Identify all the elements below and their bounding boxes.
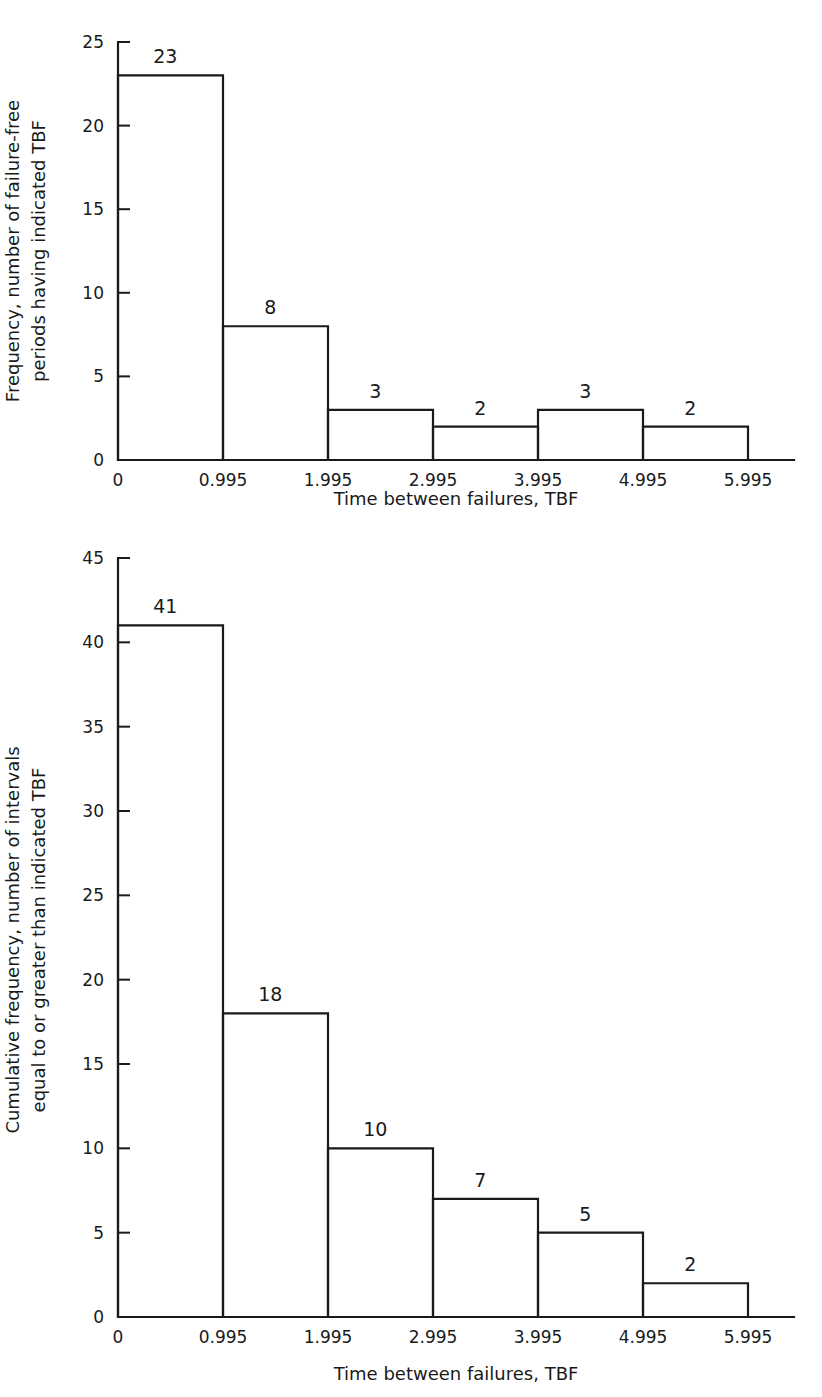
bar-value-label: 7 [474, 1169, 486, 1191]
x-axis-title: Time between failures, TBF [333, 488, 579, 509]
y-tick-label: 20 [82, 116, 104, 136]
bar-value-label: 23 [153, 45, 177, 67]
histogram-bar [118, 75, 223, 460]
y-tick-label: 45 [82, 548, 104, 568]
y-tick-label: 35 [82, 717, 104, 737]
y-axis-title-line: Cumulative frequency, number of interval… [2, 746, 23, 1133]
histogram-bar [223, 1013, 328, 1317]
histogram-bar [643, 1283, 748, 1317]
y-tick-label: 25 [82, 32, 104, 52]
bar-value-label: 5 [579, 1203, 591, 1225]
bar-value-label: 3 [579, 380, 591, 402]
y-axis-title-line: periods having indicated TBF [28, 120, 49, 382]
figure-container: 051015202500.9951.9952.9953.9954.9955.99… [0, 0, 822, 1397]
bar-value-label: 10 [363, 1118, 387, 1140]
y-tick-label: 15 [82, 199, 104, 219]
histogram-bar [433, 1199, 538, 1317]
x-tick-label: 3.995 [514, 470, 563, 490]
histogram-bar [643, 427, 748, 460]
bar-value-label: 3 [369, 380, 381, 402]
histogram-bar [433, 427, 538, 460]
y-tick-label: 40 [82, 632, 104, 652]
y-axis-title: Frequency, number of failure-freeperiods… [2, 100, 49, 402]
x-tick-label: 4.995 [619, 470, 668, 490]
histogram-bar [223, 326, 328, 460]
histogram-bar [328, 1148, 433, 1317]
bar-value-label: 2 [684, 397, 696, 419]
x-tick-label: 0 [113, 1327, 124, 1347]
chart-panel-bottom-histogram: 05101520253035404500.9951.9952.9953.9954… [2, 548, 794, 1384]
bar-value-label: 8 [264, 296, 276, 318]
bar-value-label: 2 [684, 1253, 696, 1275]
y-tick-label: 0 [93, 1307, 104, 1327]
histogram-figure: 051015202500.9951.9952.9953.9954.9955.99… [0, 0, 822, 1397]
histogram-bar [328, 410, 433, 460]
x-tick-label: 2.995 [409, 1327, 458, 1347]
bar-value-label: 18 [258, 983, 282, 1005]
x-tick-label: 0.995 [199, 470, 248, 490]
y-axis-title-line: Frequency, number of failure-free [2, 100, 23, 402]
y-tick-label: 5 [93, 366, 104, 386]
y-tick-label: 15 [82, 1054, 104, 1074]
x-axis-title: Time between failures, TBF [333, 1363, 579, 1384]
x-tick-label: 5.995 [724, 470, 773, 490]
x-tick-label: 0.995 [199, 1327, 248, 1347]
x-tick-label: 4.995 [619, 1327, 668, 1347]
y-tick-label: 10 [82, 283, 104, 303]
y-tick-label: 0 [93, 450, 104, 470]
chart-panel-top-histogram: 051015202500.9951.9952.9953.9954.9955.99… [2, 32, 794, 509]
histogram-bar [538, 410, 643, 460]
x-tick-label: 1.995 [304, 470, 353, 490]
bar-value-label: 41 [153, 595, 177, 617]
bar-value-label: 2 [474, 397, 486, 419]
y-axis-title: Cumulative frequency, number of interval… [2, 746, 49, 1133]
y-tick-label: 25 [82, 885, 104, 905]
y-tick-label: 5 [93, 1223, 104, 1243]
y-tick-label: 10 [82, 1138, 104, 1158]
x-tick-label: 2.995 [409, 470, 458, 490]
y-tick-label: 20 [82, 970, 104, 990]
x-tick-label: 3.995 [514, 1327, 563, 1347]
histogram-bar [538, 1233, 643, 1317]
histogram-bar [118, 625, 223, 1317]
y-axis-title-line: equal to or greater than indicated TBF [28, 768, 49, 1113]
x-tick-label: 5.995 [724, 1327, 773, 1347]
x-tick-label: 1.995 [304, 1327, 353, 1347]
x-tick-label: 0 [113, 470, 124, 490]
y-tick-label: 30 [82, 801, 104, 821]
